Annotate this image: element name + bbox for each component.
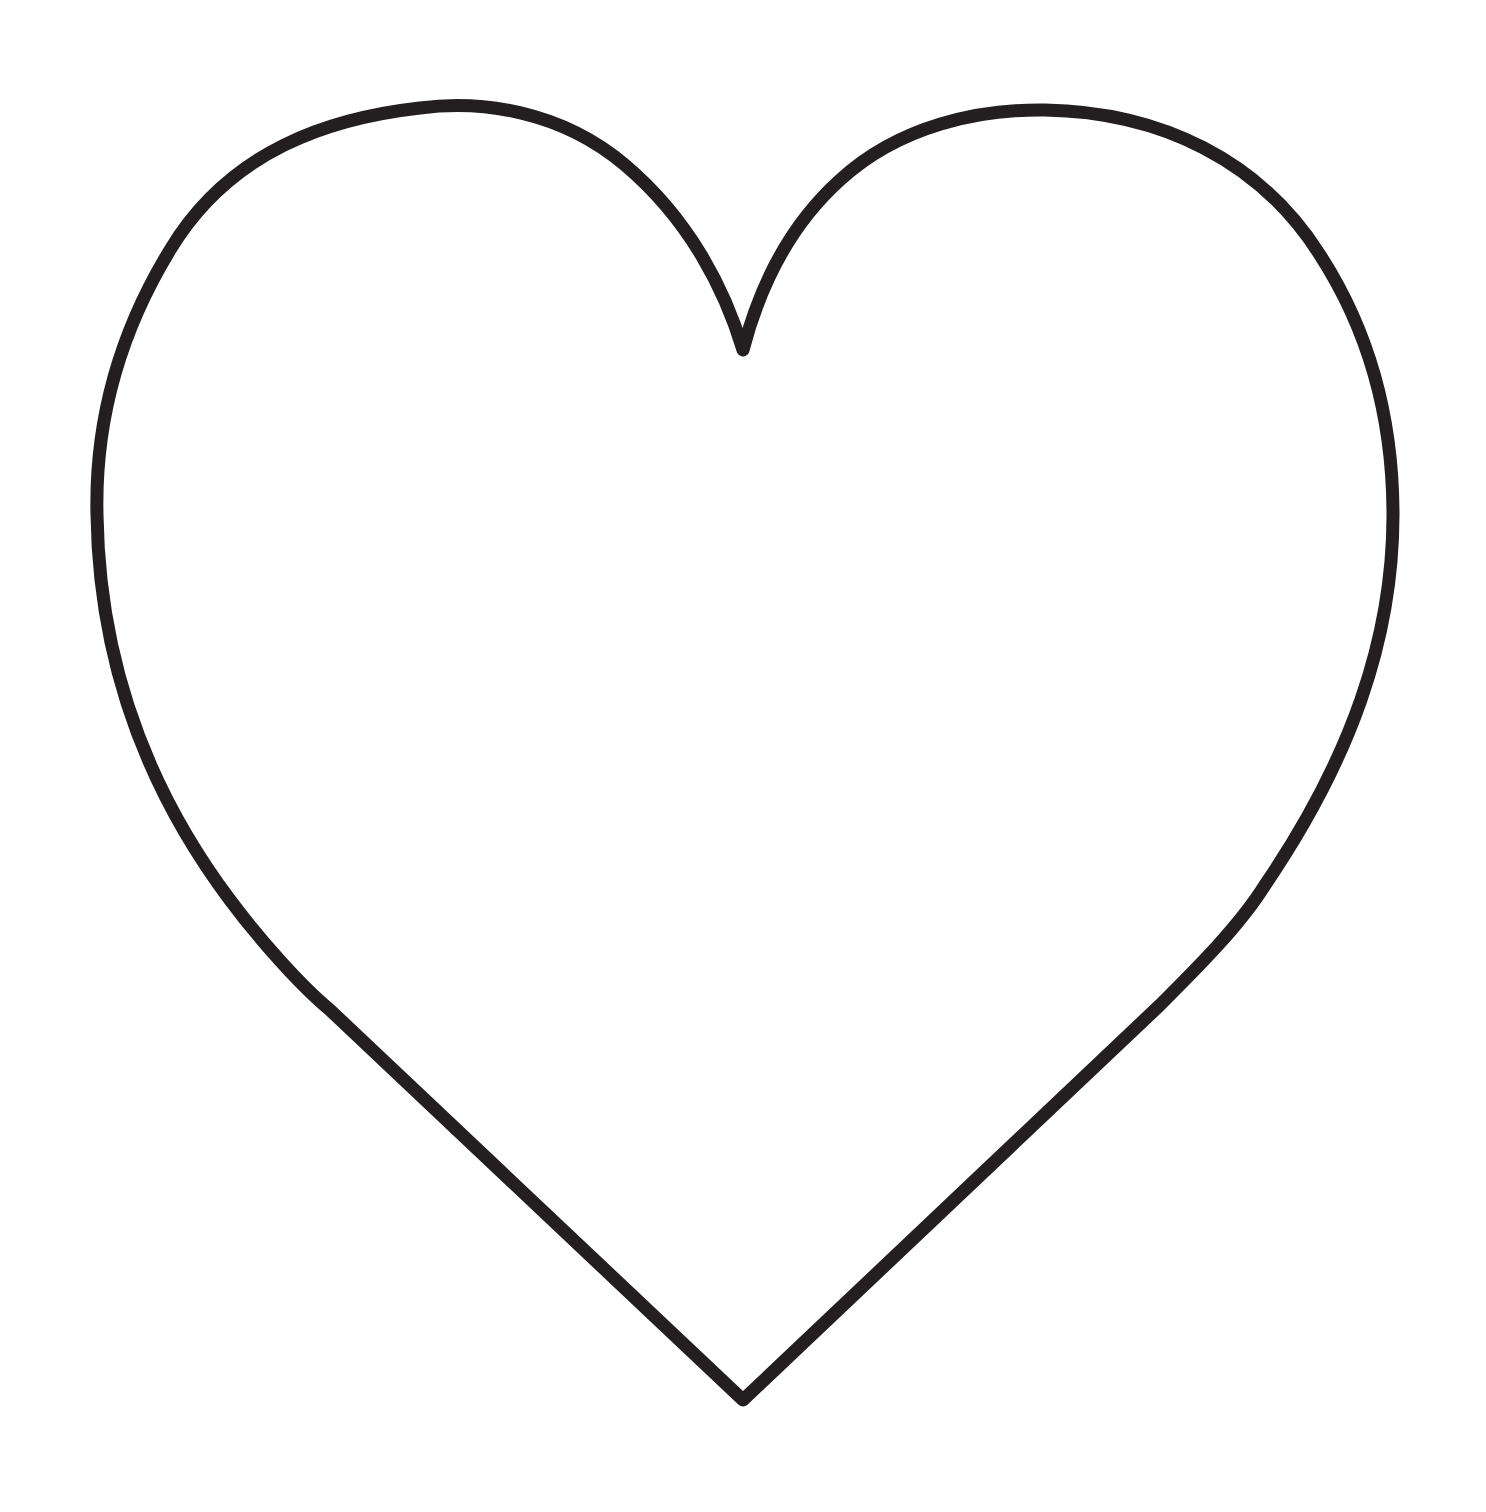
heart-outline	[97, 106, 1393, 1400]
heart-icon	[0, 0, 1486, 1512]
heart-canvas	[0, 0, 1486, 1512]
